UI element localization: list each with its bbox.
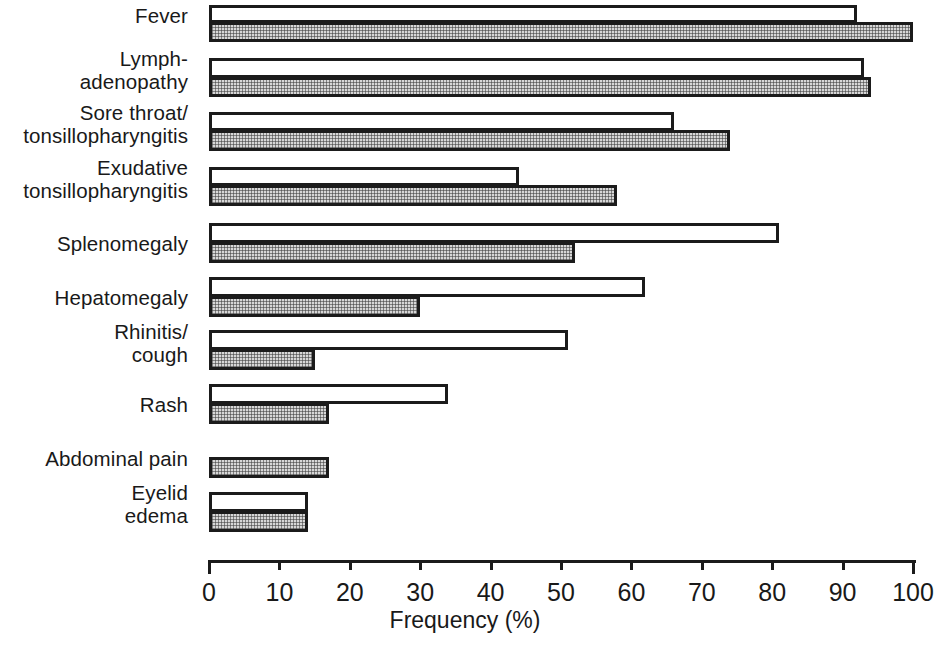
x-axis-tick-label-100: 100 bbox=[892, 580, 934, 605]
x-axis-tick-label-10: 10 bbox=[265, 580, 293, 605]
x-axis-tick-60 bbox=[630, 560, 633, 570]
bar-open-3 bbox=[209, 167, 519, 186]
x-axis-tick-label-60: 60 bbox=[617, 580, 645, 605]
x-axis-tick-label-50: 50 bbox=[547, 580, 575, 605]
x-axis-title: Frequency (%) bbox=[0, 607, 930, 634]
x-axis-tick-label-20: 20 bbox=[336, 580, 364, 605]
bar-shaded-7 bbox=[209, 403, 329, 424]
bar-open-9 bbox=[209, 492, 308, 512]
x-axis-tick-label-40: 40 bbox=[477, 580, 505, 605]
bar-open-6 bbox=[209, 330, 568, 350]
plot-area bbox=[0, 0, 930, 560]
bar-shaded-1 bbox=[209, 77, 871, 97]
x-axis-tick-0 bbox=[208, 560, 211, 574]
bar-open-4 bbox=[209, 223, 779, 243]
bar-shaded-5 bbox=[209, 296, 420, 317]
bar-open-1 bbox=[209, 58, 864, 78]
x-axis-tick-80 bbox=[771, 560, 774, 570]
bar-shaded-0 bbox=[209, 22, 913, 42]
bar-shaded-6 bbox=[209, 349, 315, 370]
bar-shaded-4 bbox=[209, 242, 575, 263]
x-axis-tick-40 bbox=[490, 560, 493, 570]
bar-open-5 bbox=[209, 277, 645, 297]
x-axis-tick-90 bbox=[842, 560, 845, 570]
x-axis-tick-label-80: 80 bbox=[758, 580, 786, 605]
bar-shaded-9 bbox=[209, 511, 308, 532]
x-axis-tick-100 bbox=[912, 560, 915, 574]
bar-shaded-8 bbox=[209, 457, 329, 478]
bar-open-0 bbox=[209, 5, 857, 23]
x-axis-tick-label-90: 90 bbox=[829, 580, 857, 605]
bar-open-7 bbox=[209, 384, 448, 404]
bar-shaded-3 bbox=[209, 185, 617, 206]
x-axis-tick-50 bbox=[560, 560, 563, 570]
x-axis-tick-10 bbox=[278, 560, 281, 570]
x-axis-tick-70 bbox=[701, 560, 704, 570]
x-axis-tick-label-70: 70 bbox=[688, 580, 716, 605]
x-axis-tick-label-30: 30 bbox=[406, 580, 434, 605]
x-axis-tick-30 bbox=[419, 560, 422, 570]
x-axis-tick-label-0: 0 bbox=[202, 580, 216, 605]
x-axis-tick-20 bbox=[349, 560, 352, 570]
bar-open-2 bbox=[209, 112, 674, 131]
bar-shaded-2 bbox=[209, 130, 730, 151]
